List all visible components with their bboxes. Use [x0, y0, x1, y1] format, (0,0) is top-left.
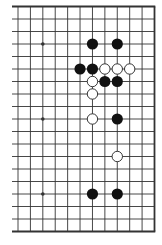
white-stone — [100, 64, 110, 74]
black-stone — [112, 38, 123, 49]
go-board — [0, 0, 162, 245]
grid-lines — [12, 7, 155, 232]
black-stone — [87, 188, 98, 199]
white-stone — [112, 151, 122, 161]
white-stone — [124, 64, 134, 74]
black-stone — [87, 63, 98, 74]
white-stone — [87, 114, 97, 124]
white-stone — [87, 76, 97, 86]
black-stone — [112, 188, 123, 199]
star-point-icon — [41, 117, 45, 121]
black-stone — [99, 76, 110, 87]
black-stone — [112, 113, 123, 124]
white-stone — [87, 89, 97, 99]
black-stone — [87, 38, 98, 49]
black-stone — [74, 63, 85, 74]
black-stone — [112, 76, 123, 87]
star-point-icon — [41, 42, 45, 46]
star-point-icon — [41, 192, 45, 196]
white-stone — [112, 64, 122, 74]
go-board-diagram — [0, 0, 162, 245]
